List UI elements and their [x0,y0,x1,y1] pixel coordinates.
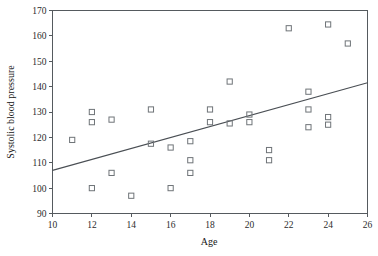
data-point-marker [326,22,331,27]
data-point-marker [89,186,94,191]
y-axis-label: Systolic blood pressure [5,65,16,159]
data-point-marker [148,107,153,112]
data-point-marker [266,147,271,152]
y-tick-label: 100 [32,184,47,194]
data-point-marker [70,137,75,142]
data-point-marker [306,107,311,112]
x-tick-label: 26 [363,220,373,230]
y-tick-label: 120 [32,133,47,143]
data-point-marker [89,120,94,125]
data-point-marker [247,120,252,125]
data-point-marker [326,114,331,119]
x-tick-label: 18 [205,220,215,230]
x-tick-label: 10 [48,220,58,230]
y-tick-label: 150 [32,57,47,67]
data-point-marker [188,158,193,163]
regression-line [53,83,368,171]
x-tick-label: 24 [323,220,333,230]
data-point-marker [129,193,134,198]
data-point-marker [306,125,311,130]
data-point-marker [326,122,331,127]
y-tick-label: 160 [32,31,47,41]
y-tick-label: 110 [33,158,47,168]
data-point-marker [168,145,173,150]
x-tick-label: 22 [284,220,294,230]
data-points [70,22,351,198]
x-axis-label: Age [201,236,218,247]
y-tick-label: 170 [32,6,47,16]
y-tick-label: 140 [32,82,47,92]
x-axis-ticks: 101214161820222426 [48,214,373,230]
chart-canvas: 90100110120130140150160170 1012141618202… [0,0,378,256]
x-tick-label: 16 [166,220,176,230]
data-point-marker [168,186,173,191]
x-tick-label: 20 [245,220,255,230]
data-point-marker [266,158,271,163]
x-tick-label: 14 [127,220,137,230]
data-point-marker [207,107,212,112]
data-point-marker [188,139,193,144]
y-tick-label: 130 [32,107,47,117]
scatter-plot-figure: 90100110120130140150160170 1012141618202… [0,0,378,256]
y-tick-label: 90 [37,209,47,219]
data-point-marker [306,89,311,94]
data-point-marker [89,109,94,114]
data-point-marker [188,170,193,175]
x-tick-label: 12 [87,220,97,230]
data-point-marker [227,79,232,84]
data-point-marker [345,41,350,46]
data-point-marker [207,120,212,125]
y-axis-ticks: 90100110120130140150160170 [32,6,52,219]
data-point-marker [109,117,114,122]
data-point-marker [109,170,114,175]
data-point-marker [286,26,291,31]
